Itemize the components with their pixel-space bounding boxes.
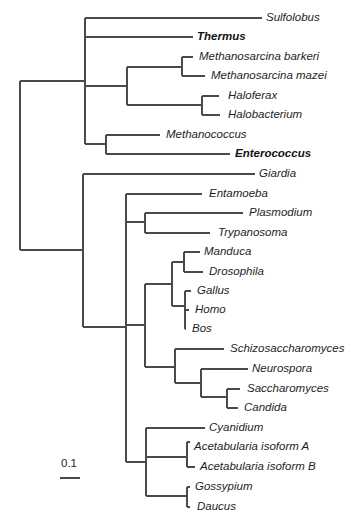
taxon-label: Trypanosoma bbox=[218, 227, 287, 239]
taxon-label: Methanococcus bbox=[166, 129, 247, 141]
taxon-label: Halobacterium bbox=[228, 109, 302, 121]
taxon-label: Daucus bbox=[197, 501, 236, 513]
taxon-label: Haloferax bbox=[228, 90, 277, 102]
taxon-label: Plasmodium bbox=[249, 207, 312, 219]
taxon-label: Drosophila bbox=[209, 266, 264, 278]
scale-bar-label: 0.1 bbox=[61, 458, 77, 470]
taxon-label: Saccharomyces bbox=[247, 383, 329, 395]
tree-branches bbox=[20, 18, 262, 507]
taxon-label: Methanosarcina barkeri bbox=[199, 51, 319, 63]
taxon-label: Giardia bbox=[259, 168, 296, 180]
taxon-label: Thermus bbox=[197, 31, 246, 43]
taxon-label: Gossypium bbox=[195, 481, 253, 493]
taxon-label: Homo bbox=[195, 304, 226, 316]
taxon-label: Acetabularia isoform B bbox=[200, 461, 316, 473]
taxon-label: Enterococcus bbox=[235, 148, 311, 160]
taxon-label: Cyanidium bbox=[209, 422, 263, 434]
taxon-label: Schizosaccharomyces bbox=[230, 343, 344, 355]
taxon-label: Manduca bbox=[204, 246, 251, 257]
taxon-label: Methanosarcina mazei bbox=[211, 70, 327, 82]
taxon-label: Sulfolobus bbox=[266, 12, 320, 23]
taxon-label: Acetabularia isoform A bbox=[194, 441, 309, 453]
taxon-label: Neurospora bbox=[252, 363, 312, 375]
taxon-label: Gallus bbox=[197, 285, 230, 297]
taxon-label: Candida bbox=[244, 402, 287, 414]
taxon-label: Bos bbox=[192, 323, 212, 335]
taxon-label: Entamoeba bbox=[209, 188, 268, 200]
